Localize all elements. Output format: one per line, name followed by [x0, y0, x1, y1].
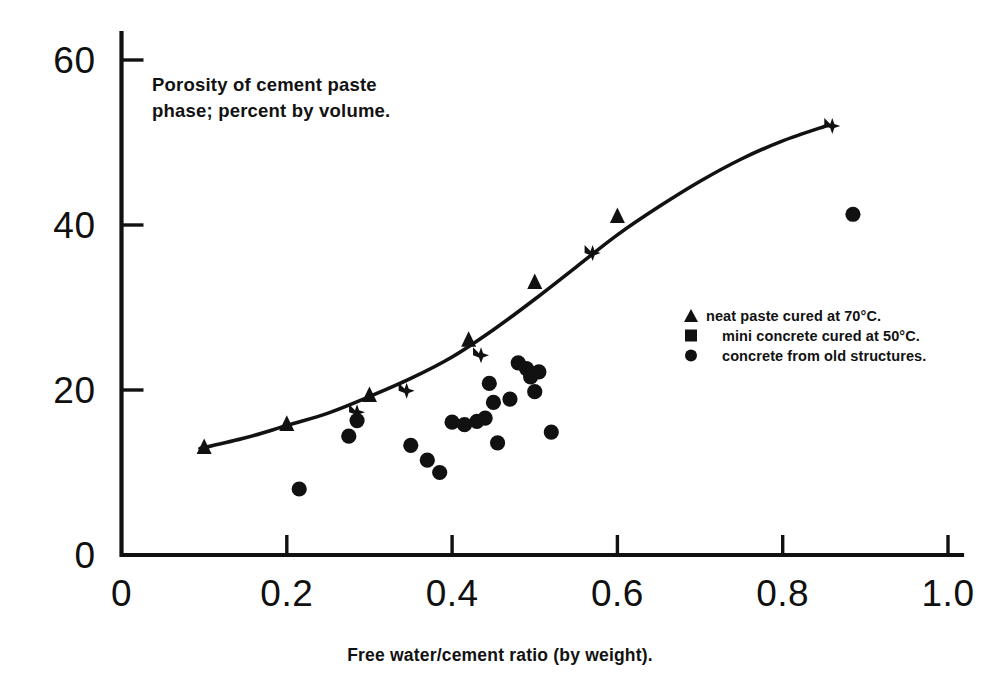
chart-legend: neat paste cured at 70°C. mini concrete …: [676, 306, 996, 366]
data-point-triangle-4: [527, 273, 542, 289]
legend-label-neat-paste: neat paste cured at 70°C.: [706, 308, 881, 324]
y-tick-label-0: 0: [74, 535, 95, 576]
data-point-circle-19: [544, 424, 559, 439]
data-point-circle-18: [531, 364, 546, 379]
x-tick-label-0: 0: [111, 573, 132, 614]
y-tick-label-40: 40: [53, 205, 95, 246]
x-tick-label-0.4: 0.4: [426, 573, 479, 614]
data-point-circle-5: [432, 465, 447, 480]
data-point-circle-11: [486, 395, 501, 410]
x-axis-tick-labels: 00.20.40.60.81.0: [111, 573, 975, 614]
y-axis-tick-labels: 0204060: [53, 40, 95, 576]
data-point-circle-20: [845, 207, 860, 222]
y-tick-label-60: 60: [53, 40, 95, 81]
y-tick-label-20: 20: [53, 370, 95, 411]
triangle-marker-icon: [676, 308, 706, 323]
legend-label-mini-concrete: mini concrete cured at 50°C.: [706, 328, 920, 344]
data-point-circle-10: [482, 376, 497, 391]
x-tick-label-0.6: 0.6: [591, 573, 644, 614]
y-axis-caption-line-1: Porosity of cement paste: [152, 72, 452, 98]
legend-item-neat-paste: neat paste cured at 70°C.: [676, 306, 996, 325]
data-point-triangle-3: [461, 331, 476, 347]
legend-item-mini-concrete: mini concrete cured at 50°C.: [676, 326, 996, 345]
data-point-circle-0: [292, 481, 307, 496]
data-point-circle-2: [349, 413, 364, 428]
x-axis-caption: Free water/cement ratio (by weight).: [0, 645, 1000, 666]
y-axis-ticks: [122, 60, 144, 390]
y-axis-caption-line-2: phase; percent by volume.: [152, 98, 452, 124]
data-point-square-4: [824, 118, 840, 134]
data-point-circle-3: [403, 438, 418, 453]
data-point-circle-4: [420, 453, 435, 468]
data-point-square-2: [473, 347, 489, 363]
x-axis-ticks: [287, 535, 948, 555]
x-tick-label-1: 1.0: [922, 573, 975, 614]
chart-figure: 0204060 00.20.40.60.81.0 Porosity of cem…: [0, 0, 1000, 682]
legend-item-old-structures: concrete from old structures.: [676, 346, 996, 365]
x-tick-label-0.8: 0.8: [756, 573, 809, 614]
series-triangle: [197, 207, 625, 454]
data-point-triangle-5: [610, 207, 625, 223]
data-point-circle-9: [478, 410, 493, 425]
circle-marker-icon: [676, 348, 706, 363]
y-axis-caption: Porosity of cement paste phase; percent …: [152, 72, 452, 124]
data-point-circle-1: [341, 429, 356, 444]
square-marker-icon: [676, 328, 706, 343]
legend-label-old-structures: concrete from old structures.: [706, 348, 926, 364]
x-tick-label-0.2: 0.2: [260, 573, 313, 614]
data-point-square-1: [399, 383, 415, 399]
data-point-circle-13: [502, 391, 517, 406]
data-point-circle-12: [490, 435, 505, 450]
data-point-circle-17: [527, 384, 542, 399]
series-square: [349, 118, 840, 420]
